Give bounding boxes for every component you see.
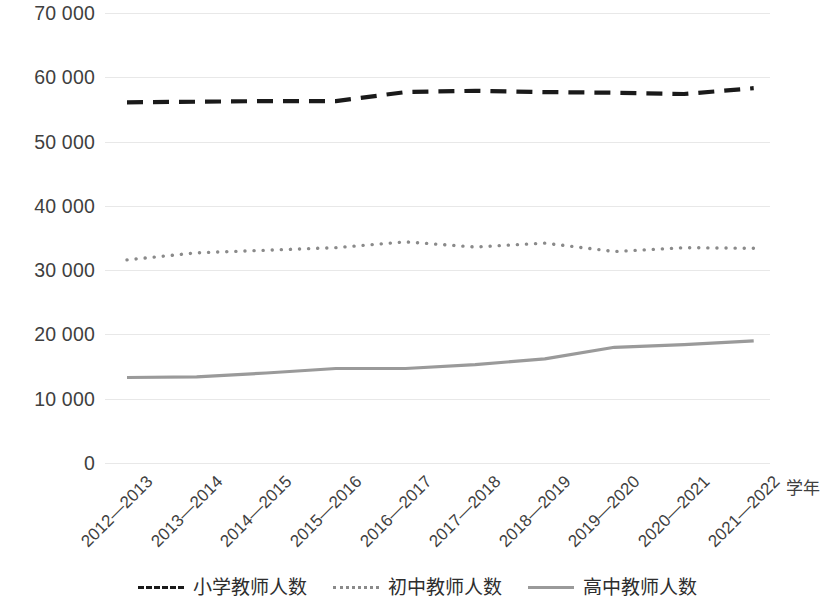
line-chart: 010 00020 00030 00040 00050 00060 00070 …	[0, 0, 835, 609]
legend-item-label: 小学教师人数	[193, 578, 307, 597]
legend-item[interactable]: 初中教师人数	[333, 578, 502, 597]
legend-item-label: 初中教师人数	[388, 578, 502, 597]
solid-line-icon	[528, 586, 574, 589]
x-axis-title: 学年	[786, 474, 820, 499]
series-line-solid	[127, 341, 754, 378]
legend-item-label: 高中教师人数	[583, 578, 697, 597]
legend-item[interactable]: 高中教师人数	[528, 578, 697, 597]
dotted-line-icon	[333, 586, 379, 589]
legend-item[interactable]: 小学教师人数	[138, 578, 307, 597]
dashed-line-icon	[138, 586, 184, 589]
chart-legend: 小学教师人数初中教师人数高中教师人数	[0, 578, 835, 597]
series-line-dotted	[127, 242, 754, 260]
series-line-dashed	[127, 88, 754, 102]
